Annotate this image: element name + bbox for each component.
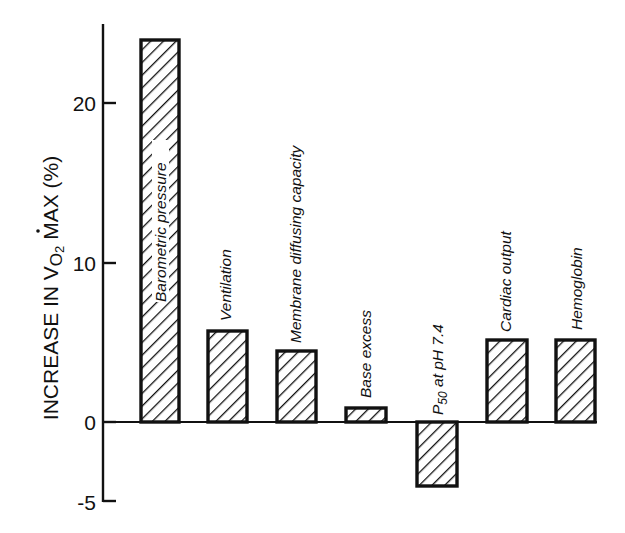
bar-base-excess xyxy=(346,408,386,422)
y-tick-0: 0 xyxy=(84,411,96,434)
y-tick-minus5: -5 xyxy=(77,491,96,514)
bar-cardiac-output xyxy=(487,340,527,422)
y-tick-20: 20 xyxy=(73,92,96,115)
category-label-hemoglobin: Hemoglobin xyxy=(568,247,585,330)
bar-hemoglobin xyxy=(556,340,595,422)
bar-p50 xyxy=(417,422,457,486)
category-label-ventilation: Ventilation xyxy=(217,249,234,321)
y-axis: 20 10 0 -5 xyxy=(73,24,116,514)
svg-text:INCREASE IN VO2 MAX (%): INCREASE IN VO2 MAX (%) xyxy=(39,156,67,420)
category-label-cardiac-output: Cardiac output xyxy=(497,230,514,332)
v-dot-accent xyxy=(36,229,40,233)
y-tick-10: 10 xyxy=(73,252,96,275)
category-label-membrane-diffusing-capacity: Membrane diffusing capacity xyxy=(287,144,304,343)
bar-membrane-diffusing-capacity xyxy=(277,351,316,422)
category-label-base-excess: Base excess xyxy=(357,310,374,398)
y-axis-title: INCREASE IN VO2 MAX (%) xyxy=(36,156,67,420)
bars xyxy=(141,40,595,486)
category-label-barometric-pressure: Barometric pressure xyxy=(152,162,169,302)
category-label-p50: P50 at pH 7.4 xyxy=(429,324,450,415)
bar-ventilation xyxy=(208,331,247,422)
bar-chart: 20 10 0 -5 INCREASE IN VO2 MAX (%) Barom… xyxy=(0,0,625,533)
